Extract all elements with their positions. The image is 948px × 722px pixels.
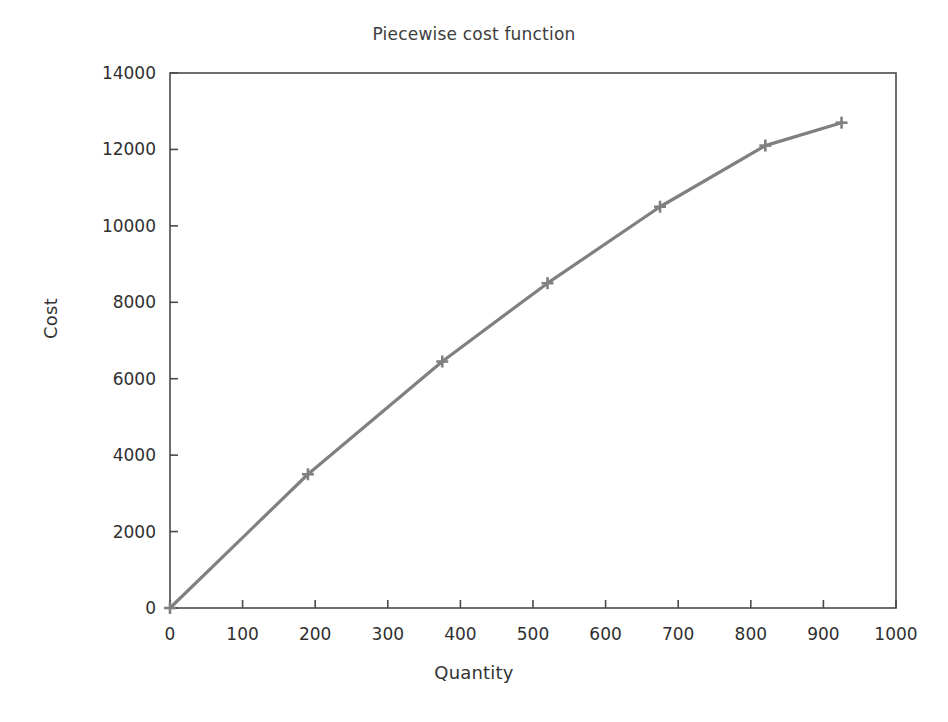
x-tick-label: 200 [299,624,331,644]
x-tick-label: 500 [517,624,549,644]
data-series-markers [164,117,848,614]
y-tick-label: 14000 [0,63,156,83]
x-tick-label: 800 [735,624,767,644]
chart-figure: Piecewise cost function 0200040006000800… [0,0,948,722]
x-tick-label: 0 [165,624,176,644]
y-tick-label: 4000 [0,445,156,465]
y-tick-label: 2000 [0,522,156,542]
x-tick-label: 300 [372,624,404,644]
y-tick-label: 6000 [0,369,156,389]
data-series-line [170,123,842,608]
y-axis-title: Cost [40,259,61,379]
y-axis-ticks [170,73,178,608]
y-tick-label: 10000 [0,216,156,236]
y-tick-label: 12000 [0,139,156,159]
y-tick-label: 0 [0,598,156,618]
x-tick-label: 100 [226,624,258,644]
x-axis-title: Quantity [0,662,948,683]
x-axis-ticks [170,600,896,608]
y-tick-label: 8000 [0,292,156,312]
x-tick-label: 1000 [874,624,917,644]
x-tick-label: 600 [589,624,621,644]
x-tick-label: 700 [662,624,694,644]
x-tick-label: 400 [444,624,476,644]
x-tick-label: 900 [807,624,839,644]
axes-frame [170,73,896,608]
